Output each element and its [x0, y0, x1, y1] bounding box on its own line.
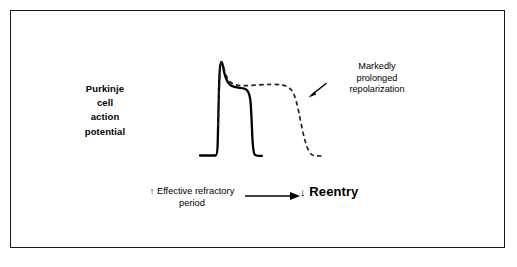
reentry-word: Reentry [309, 184, 358, 199]
erp-line-1: ↑ Effective refractory [140, 186, 244, 198]
reentry-down-arrow-glyph: ↓ [300, 186, 306, 198]
arrow-right-icon [244, 186, 304, 206]
reentry-label: ↓ Reentry [300, 184, 358, 199]
annotation-line-2: prolonged [326, 73, 428, 85]
effective-refractory-period-label: ↑ Effective refractory period [140, 186, 244, 210]
figure-canvas: Purkinje cell action potential Markedly … [0, 0, 517, 267]
annotation-pointer-arrow [309, 84, 327, 98]
control-action-potential-trace [200, 62, 262, 156]
annotation-line-1: Markedly [326, 61, 428, 73]
prolonged-repolarization-annotation: Markedly prolonged repolarization [326, 61, 428, 96]
effect-statement-row: ↑ Effective refractory period ↓ Reentry [140, 186, 390, 220]
prolonged-repolarization-trace [218, 62, 322, 156]
erp-line-2: period [140, 198, 244, 210]
action-potential-waveform [0, 0, 517, 267]
annotation-line-3: repolarization [326, 84, 428, 96]
